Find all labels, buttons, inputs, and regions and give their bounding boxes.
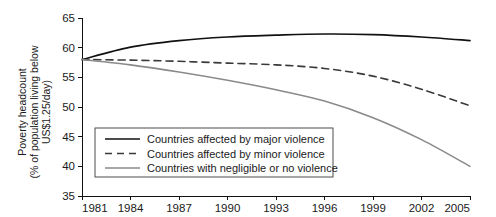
x-axis: 198119841987199019931996199920022005 (82, 196, 470, 214)
y-tick-label: 65 (62, 12, 75, 24)
x-tick-label: 1984 (118, 202, 144, 214)
legend-label-2: Countries with negligible or no violence (147, 162, 338, 174)
x-tick-label: 2005 (444, 202, 470, 214)
x-tick-label: 1999 (360, 202, 386, 214)
y-tick-label: 50 (62, 101, 75, 113)
y-tick-label: 45 (62, 131, 75, 143)
y-tick-label: 35 (62, 190, 75, 202)
x-tick-label: 1993 (263, 202, 289, 214)
y-axis: 35404550556065 (62, 12, 82, 202)
chart-legend: Countries affected by major violenceCoun… (95, 128, 338, 177)
x-tick-label: 1990 (215, 202, 241, 214)
y-axis-title-line-2: (% of population living below (28, 45, 40, 178)
y-tick-label: 40 (62, 160, 75, 172)
series-line-0 (82, 34, 470, 60)
chart-container: Poverty headcount (% of population livin… (0, 0, 496, 217)
legend-label-1: Countries affected by minor violence (147, 148, 325, 160)
y-axis-title-line-3: US$1.25/day) (40, 80, 52, 144)
y-axis-title: Poverty headcount (% of population livin… (16, 45, 52, 178)
legend-label-0: Countries affected by major violence (147, 133, 325, 145)
y-axis-title-line-1: Poverty headcount (16, 68, 28, 156)
y-tick-label: 55 (62, 71, 75, 83)
poverty-headcount-line-chart: Poverty headcount (% of population livin… (0, 0, 496, 217)
y-tick-label: 60 (62, 42, 75, 54)
x-tick-label: 1987 (166, 202, 192, 214)
x-tick-label: 1981 (82, 202, 108, 214)
x-tick-label: 2002 (409, 202, 435, 214)
x-tick-label: 1996 (312, 202, 338, 214)
